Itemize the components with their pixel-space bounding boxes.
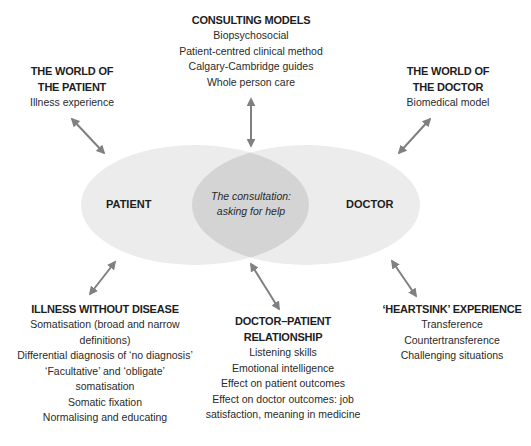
doctor-patient-relationship-item: satisfaction, meaning in medicine — [196, 407, 370, 423]
arrow-world-of-patient — [72, 119, 104, 153]
illness-without-disease-item: Somatisation (broad and narrow — [0, 317, 210, 333]
doctor-patient-relationship-title-line2: RELATIONSHIP — [196, 329, 370, 345]
patient-label: PATIENT — [106, 198, 151, 210]
consultation-label-line1: The consultation: — [211, 190, 291, 202]
arrow-world-of-doctor — [399, 119, 430, 153]
heartsink-experience-item: Countertransference — [372, 333, 531, 349]
world-of-doctor-title-line1: THE WORLD OF — [388, 63, 508, 79]
arrow-heartsink — [392, 261, 416, 296]
world-of-patient-title-line1: THE WORLD OF — [12, 63, 132, 79]
world-of-patient-block: THE WORLD OF THE PATIENT Illness experie… — [12, 63, 132, 111]
consulting-models-block: CONSULTING MODELS Biopsychosocial Patien… — [150, 12, 352, 90]
illness-without-disease-item: Somatic fixation — [0, 395, 210, 411]
arrow-doctor-patient-relationship — [251, 264, 279, 309]
illness-without-disease-item: definitions) — [0, 333, 210, 349]
doctor-patient-relationship-item: Emotional intelligence — [196, 361, 370, 377]
consulting-models-item: Biopsychosocial — [150, 28, 352, 44]
world-of-doctor-item: Biomedical model — [388, 95, 508, 111]
consulting-models-item: Calgary-Cambridge guides — [150, 59, 352, 75]
doctor-label: DOCTOR — [346, 198, 393, 210]
illness-without-disease-item: somatisation — [0, 379, 210, 395]
doctor-patient-relationship-block: DOCTOR–PATIENT RELATIONSHIP Listening sk… — [196, 313, 370, 423]
heartsink-experience-title: ‘HEARTSINK’ EXPERIENCE — [372, 301, 531, 317]
arrow-illness-without-disease — [90, 262, 115, 294]
consulting-models-title: CONSULTING MODELS — [150, 12, 352, 28]
heartsink-experience-block: ‘HEARTSINK’ EXPERIENCE Transference Coun… — [372, 301, 531, 364]
doctor-patient-relationship-item: Effect on doctor outcomes: job — [196, 392, 370, 408]
illness-without-disease-item: Normalising and educating — [0, 410, 210, 426]
world-of-patient-title-line2: THE PATIENT — [12, 79, 132, 95]
doctor-patient-relationship-title-line1: DOCTOR–PATIENT — [196, 313, 370, 329]
illness-without-disease-block: ILLNESS WITHOUT DISEASE Somatisation (br… — [0, 301, 210, 426]
consultation-label: The consultation: asking for help — [196, 189, 306, 219]
heartsink-experience-item: Transference — [372, 317, 531, 333]
doctor-patient-relationship-item: Listening skills — [196, 345, 370, 361]
world-of-patient-item: Illness experience — [12, 95, 132, 111]
illness-without-disease-item: ‘Facultative’ and ‘obligate’ — [0, 364, 210, 380]
world-of-doctor-block: THE WORLD OF THE DOCTOR Biomedical model — [388, 63, 508, 111]
doctor-patient-relationship-item: Effect on patient outcomes — [196, 376, 370, 392]
consultation-venn-diagram: PATIENT DOCTOR The consultation: asking … — [0, 0, 531, 446]
consulting-models-item: Whole person care — [150, 75, 352, 91]
heartsink-experience-item: Challenging situations — [372, 348, 531, 364]
world-of-doctor-title-line2: THE DOCTOR — [388, 79, 508, 95]
illness-without-disease-item: Differential diagnosis of ‘no diagnosis’ — [0, 348, 210, 364]
consulting-models-item: Patient-centred clinical method — [150, 44, 352, 60]
consultation-label-line2: asking for help — [217, 205, 285, 217]
illness-without-disease-title: ILLNESS WITHOUT DISEASE — [0, 301, 210, 317]
